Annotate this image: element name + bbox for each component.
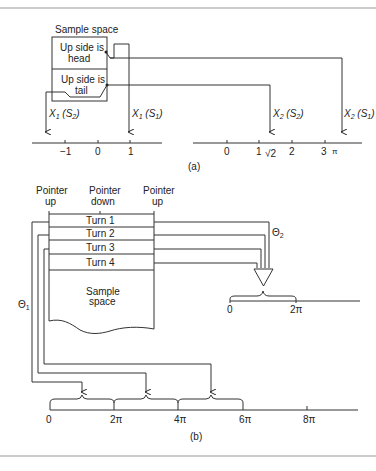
pointer-up-left-2: up — [45, 196, 57, 207]
tick-0: 0 — [95, 146, 101, 157]
pointer-up-left-1: Pointer — [36, 185, 68, 196]
tick-1: 1 — [128, 146, 134, 157]
turn-3: Turn 3 — [86, 242, 115, 253]
theta2-line-turn3 — [154, 249, 261, 268]
tick-small-2pi: 2π — [290, 304, 303, 315]
brace-2pi-4pi — [114, 395, 178, 410]
turn-1: Turn 1 — [86, 215, 115, 226]
tick-large-4pi: 4π — [174, 414, 187, 425]
outcome-tail-line2: tail — [75, 85, 88, 96]
sample-space-title: Sample space — [55, 24, 119, 35]
tick-sqrt2: √2 — [265, 148, 276, 159]
arrow-x1-head — [106, 44, 129, 132]
theta2-line-turn1 — [154, 222, 269, 268]
tick-large-0: 0 — [46, 414, 52, 425]
arrow-x2-head — [110, 58, 342, 132]
pointer-down-2: down — [91, 196, 115, 207]
outcome-head-line2: head — [68, 53, 90, 64]
theta1-line-turn1 — [32, 222, 82, 392]
turn-4: Turn 4 — [86, 257, 115, 268]
tick-0b: 0 — [224, 146, 230, 157]
tick-3: 3 — [321, 146, 327, 157]
figure-b: Pointer up Pointer down Pointer up Turn … — [18, 185, 360, 442]
tick-large-8pi: 8π — [303, 414, 316, 425]
theta2-merge-arrow — [254, 269, 273, 286]
tick-2: 2 — [289, 146, 295, 157]
caption-b: (b) — [190, 431, 202, 442]
tick-neg1: −1 — [60, 146, 72, 157]
brace-0-2pi-large — [50, 395, 114, 410]
figure-a: Sample space Up side is head Up side is … — [32, 24, 375, 172]
sample-space-torn-edge — [49, 320, 154, 333]
brace-4pi-6pi — [178, 395, 243, 410]
tick-1b: 1 — [256, 146, 262, 157]
sample-space-b-2: space — [89, 296, 116, 307]
tick-small-0: 0 — [227, 304, 233, 315]
label-x2-s1: X2 (S1) — [343, 108, 375, 120]
random-variable-diagram: Sample space Up side is head Up side is … — [0, 0, 376, 471]
label-x1-s2: X1 (S2) — [48, 108, 80, 120]
turn-2: Turn 2 — [86, 228, 115, 239]
pointer-down-1: Pointer — [89, 185, 121, 196]
theta2-label: Θ2 — [272, 227, 284, 239]
label-x2-s2: X2 (S2) — [272, 108, 304, 120]
outcome-tail-line1: Up side is — [61, 74, 105, 85]
tick-large-6pi: 6π — [239, 414, 252, 425]
theta2-line-turn4 — [154, 263, 257, 268]
tick-pi: π — [332, 147, 338, 156]
pointer-range-bracket — [49, 211, 154, 214]
caption-a: (a) — [188, 161, 200, 172]
pointer-up-right-2: up — [152, 196, 164, 207]
tick-large-2pi: 2π — [110, 414, 123, 425]
pointer-up-right-1: Pointer — [143, 185, 175, 196]
theta1-label: Θ1 — [18, 299, 30, 311]
label-x1-s1: X1 (S1) — [131, 108, 163, 120]
outcome-head-line1: Up side is — [60, 42, 104, 53]
